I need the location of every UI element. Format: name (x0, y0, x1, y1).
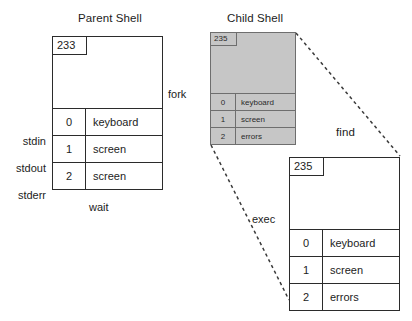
table-row: 0 keyboard (211, 93, 295, 110)
table-row: 2 errors (290, 283, 399, 310)
fd-number: 2 (290, 284, 323, 310)
exec-label: exec (252, 213, 275, 225)
fd-device: screen (236, 111, 295, 127)
fd-device: errors (236, 128, 295, 144)
table-row: 1 screen (211, 110, 295, 127)
fd-number: 0 (290, 230, 323, 256)
fork-label: fork (168, 88, 186, 100)
find-process-title: find (336, 126, 355, 138)
parent-shell-box: 233 0 keyboard 1 screen 2 screen (52, 36, 163, 190)
child-pid-tag: 235 (211, 33, 237, 46)
child-shell-box: 235 0 keyboard 1 screen 2 errors (210, 32, 296, 145)
fd-device: screen (86, 136, 162, 162)
fd-number: 1 (211, 111, 236, 127)
diagram-canvas: Parent Shell 233 0 keyboard 1 screen 2 s… (0, 0, 412, 321)
child-shell-title: Child Shell (227, 12, 283, 24)
child-fd-table: 0 keyboard 1 screen 2 errors (211, 93, 295, 144)
fd-device: keyboard (86, 109, 162, 135)
fd-device: keyboard (323, 230, 399, 256)
fd-device: screen (323, 257, 399, 283)
table-row: 0 keyboard (290, 229, 399, 256)
parent-fd-label-stderr: stderr (0, 189, 46, 201)
parent-fd-label-stdin: stdin (0, 135, 46, 147)
exec-dashed-connector (211, 145, 289, 300)
table-row: 2 screen (53, 162, 162, 189)
fd-number: 0 (211, 94, 236, 110)
fd-device: keyboard (236, 94, 295, 110)
parent-shell-title: Parent Shell (78, 12, 142, 24)
table-row: 1 screen (290, 256, 399, 283)
table-row: 1 screen (53, 135, 162, 162)
wait-label: wait (89, 201, 109, 213)
table-row: 2 errors (211, 127, 295, 144)
parent-pid-tag: 233 (53, 37, 87, 55)
fd-number: 2 (53, 163, 86, 189)
fd-number: 1 (53, 136, 86, 162)
fd-device: screen (86, 163, 162, 189)
fd-number: 2 (211, 128, 236, 144)
fd-number: 1 (290, 257, 323, 283)
fd-device: errors (323, 284, 399, 310)
parent-fd-table: 0 keyboard 1 screen 2 screen (53, 108, 162, 189)
table-row: 0 keyboard (53, 108, 162, 135)
find-process-box: 235 0 keyboard 1 screen 2 errors (289, 157, 400, 311)
find-pid-tag: 235 (290, 158, 324, 176)
parent-fd-label-stdout: stdout (0, 162, 46, 174)
fd-number: 0 (53, 109, 86, 135)
find-fd-table: 0 keyboard 1 screen 2 errors (290, 229, 399, 310)
